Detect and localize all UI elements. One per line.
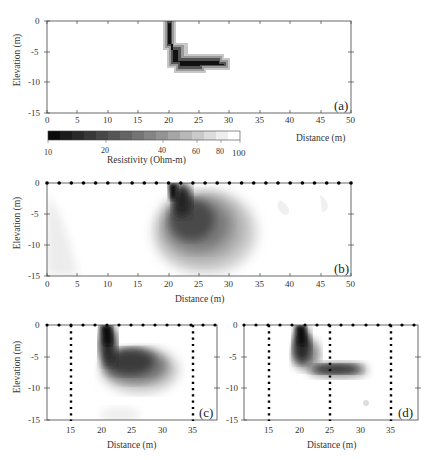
colorbar-tick: 20 xyxy=(101,146,109,155)
ytick: -5 xyxy=(31,47,39,57)
xtick: 0 xyxy=(45,279,50,289)
ytick: -5 xyxy=(31,352,39,362)
ytick: -10 xyxy=(28,240,40,250)
colorbar-label: Resistivity (Ohm-m) xyxy=(107,155,186,165)
ytick: -15 xyxy=(28,415,40,425)
xtick: 0 xyxy=(45,115,50,125)
colorbar-tick: 40 xyxy=(158,146,166,155)
xtick: 5 xyxy=(75,279,80,289)
panel-d-xlabel: Distance (m) xyxy=(307,440,356,450)
panel-b-ylabel: Elevation (m) xyxy=(12,188,22,258)
xtick: 50 xyxy=(346,115,355,125)
xtick: 15 xyxy=(133,115,142,125)
xtick: 25 xyxy=(194,279,203,289)
panel-a-plot xyxy=(44,21,354,113)
xtick: 35 xyxy=(255,279,264,289)
xtick: 20 xyxy=(164,279,173,289)
xtick: 15 xyxy=(133,279,142,289)
xtick: 10 xyxy=(103,115,112,125)
panel-d-plot xyxy=(292,325,369,406)
xtick: 15 xyxy=(66,425,75,435)
xtick: 25 xyxy=(127,425,136,435)
panel-a-ylabel: Elevation (m) xyxy=(12,25,22,95)
panel-d-label: (d) xyxy=(398,405,413,421)
xtick: 25 xyxy=(194,115,203,125)
ytick: -15 xyxy=(28,108,40,118)
xtick: 30 xyxy=(158,425,167,435)
ytick: -5 xyxy=(31,209,39,219)
xtick: 30 xyxy=(224,115,233,125)
xtick: 10 xyxy=(103,279,112,289)
ytick: 0 xyxy=(233,320,238,330)
xtick: 20 xyxy=(164,115,173,125)
ytick: -10 xyxy=(28,383,40,393)
xtick: 25 xyxy=(325,425,334,435)
ytick: 0 xyxy=(35,16,40,26)
xtick: 15 xyxy=(264,425,273,435)
panel-c-plot xyxy=(99,325,178,423)
panel-c-ylabel: Elevation (m) xyxy=(12,332,22,402)
ytick: 0 xyxy=(35,178,40,188)
panel-c-label: (c) xyxy=(199,405,213,421)
xtick: 30 xyxy=(356,425,365,435)
ytick: -15 xyxy=(28,271,40,281)
colorbar xyxy=(48,131,240,143)
colorbar-tick: 10 xyxy=(44,148,52,157)
panel-a-label: (a) xyxy=(334,98,348,114)
ytick: -10 xyxy=(28,77,40,87)
colorbar-tick: 100 xyxy=(232,148,246,158)
xtick: 30 xyxy=(224,279,233,289)
panel-b-xlabel: Distance (m) xyxy=(175,294,224,304)
ytick: -5 xyxy=(229,352,237,362)
figure-graphics xyxy=(0,0,434,460)
xtick: 35 xyxy=(188,425,197,435)
xtick: 5 xyxy=(75,115,80,125)
xtick: 40 xyxy=(285,279,294,289)
panel-b-plot xyxy=(47,183,328,276)
xtick: 35 xyxy=(255,115,264,125)
xtick: 35 xyxy=(386,425,395,435)
ytick: 0 xyxy=(35,320,40,330)
colorbar-tick: 60 xyxy=(192,147,200,156)
xtick: 50 xyxy=(346,279,355,289)
panel-c-xlabel: Distance (m) xyxy=(107,440,156,450)
ytick: -10 xyxy=(226,383,238,393)
colorbar-tick: 80 xyxy=(216,147,224,156)
panel-b-label: (b) xyxy=(334,261,349,277)
xtick: 20 xyxy=(97,425,106,435)
panel-a-xlabel: Distance (m) xyxy=(296,133,345,143)
xtick: 40 xyxy=(285,115,294,125)
ytick: -15 xyxy=(226,415,238,425)
xtick: 20 xyxy=(295,425,304,435)
xtick: 45 xyxy=(316,115,325,125)
xtick: 45 xyxy=(316,279,325,289)
